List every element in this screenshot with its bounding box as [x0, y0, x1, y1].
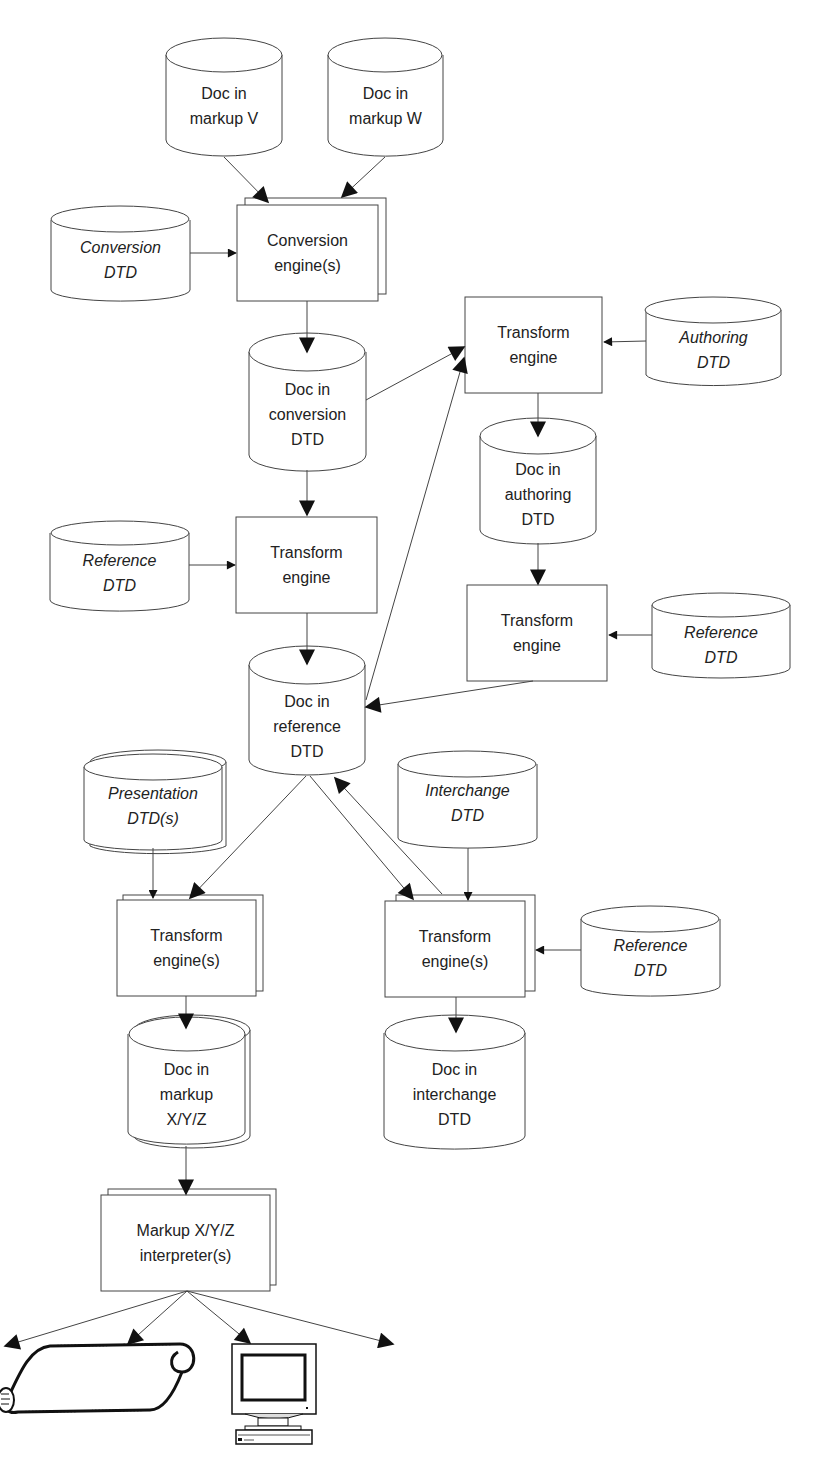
label-transform-engines-presentation: Transform engine(s) — [117, 900, 256, 996]
label-markup-interpreter: Markup X/Y/Z interpreter(s) — [101, 1195, 270, 1291]
label-doc-conversion-dtd: Doc in conversion DTD — [249, 372, 366, 456]
label-transform-engines-interchange: Transform engine(s) — [385, 901, 525, 997]
label-presentation-dtds: Presentation DTD(s) — [84, 776, 222, 836]
label-reference-dtd-1: Reference DTD — [50, 543, 189, 603]
label-transform-engine-authoring: Transform engine — [465, 297, 602, 393]
label-reference-dtd-2: Reference DTD — [652, 617, 790, 673]
printed-scroll-icon — [0, 1344, 194, 1412]
label-doc-authoring-dtd: Doc in authoring DTD — [480, 452, 596, 536]
label-transform-engine-authoring-to-ref: Transform engine — [467, 585, 607, 681]
computer-monitor-icon — [232, 1344, 316, 1444]
label-reference-dtd-3: Reference DTD — [581, 928, 720, 988]
label-doc-markup-w: Doc in markup W — [328, 72, 443, 140]
label-conversion-dtd: Conversion DTD — [51, 230, 190, 290]
label-doc-markup-v: Doc in markup V — [166, 72, 282, 140]
label-transform-engine-reference: Transform engine — [236, 517, 377, 613]
label-doc-interchange-dtd: Doc in interchange DTD — [384, 1052, 525, 1136]
label-interchange-dtd: Interchange DTD — [398, 773, 537, 833]
label-doc-reference-dtd: Doc in reference DTD — [249, 684, 365, 768]
label-authoring-dtd: Authoring DTD — [646, 320, 781, 380]
label-conversion-engine: Conversion engine(s) — [237, 205, 378, 301]
label-doc-markup-xyz: Doc in markup X/Y/Z — [128, 1052, 245, 1136]
